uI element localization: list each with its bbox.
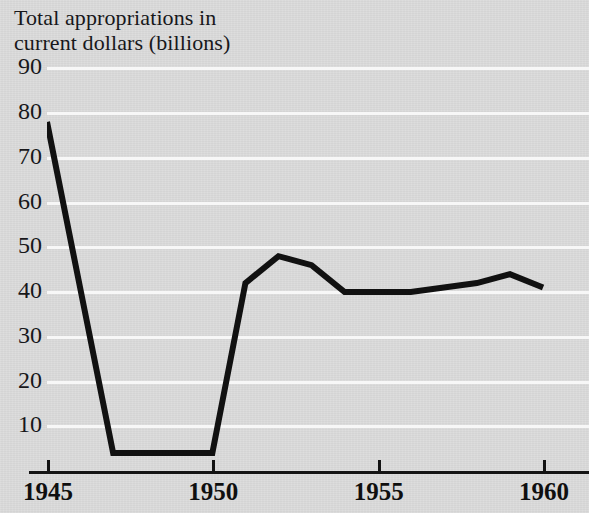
y-axis-tick-label: 60 — [0, 189, 42, 213]
x-axis-tick-label: 1950 — [168, 477, 258, 507]
plot-area — [47, 56, 589, 471]
chart-title: Total appropriations in current dollars … — [14, 5, 344, 55]
y-axis-labels: 908070605040302010 — [0, 0, 42, 513]
chart-figure: Total appropriations in current dollars … — [0, 0, 589, 513]
y-axis-tick-label: 80 — [0, 99, 42, 123]
x-axis-tick-label: 1960 — [499, 477, 589, 507]
series-line-total-appropriations — [47, 122, 543, 453]
x-axis-line — [29, 471, 589, 474]
data-line-svg — [47, 56, 589, 471]
x-axis-tick-label: 1945 — [3, 477, 93, 507]
x-axis-tick-label: 1955 — [334, 477, 424, 507]
x-axis-tick — [212, 460, 215, 472]
x-axis-tick — [47, 460, 50, 472]
x-axis-tick — [543, 460, 546, 472]
y-axis-tick-label: 90 — [0, 54, 42, 78]
y-axis-tick-label: 20 — [0, 368, 42, 392]
y-axis-tick-label: 40 — [0, 278, 42, 302]
x-axis-tick — [378, 460, 381, 472]
y-axis-tick-label: 10 — [0, 412, 42, 436]
y-axis-tick-label: 30 — [0, 323, 42, 347]
y-axis-tick-label: 50 — [0, 233, 42, 257]
y-axis-tick-label: 70 — [0, 144, 42, 168]
